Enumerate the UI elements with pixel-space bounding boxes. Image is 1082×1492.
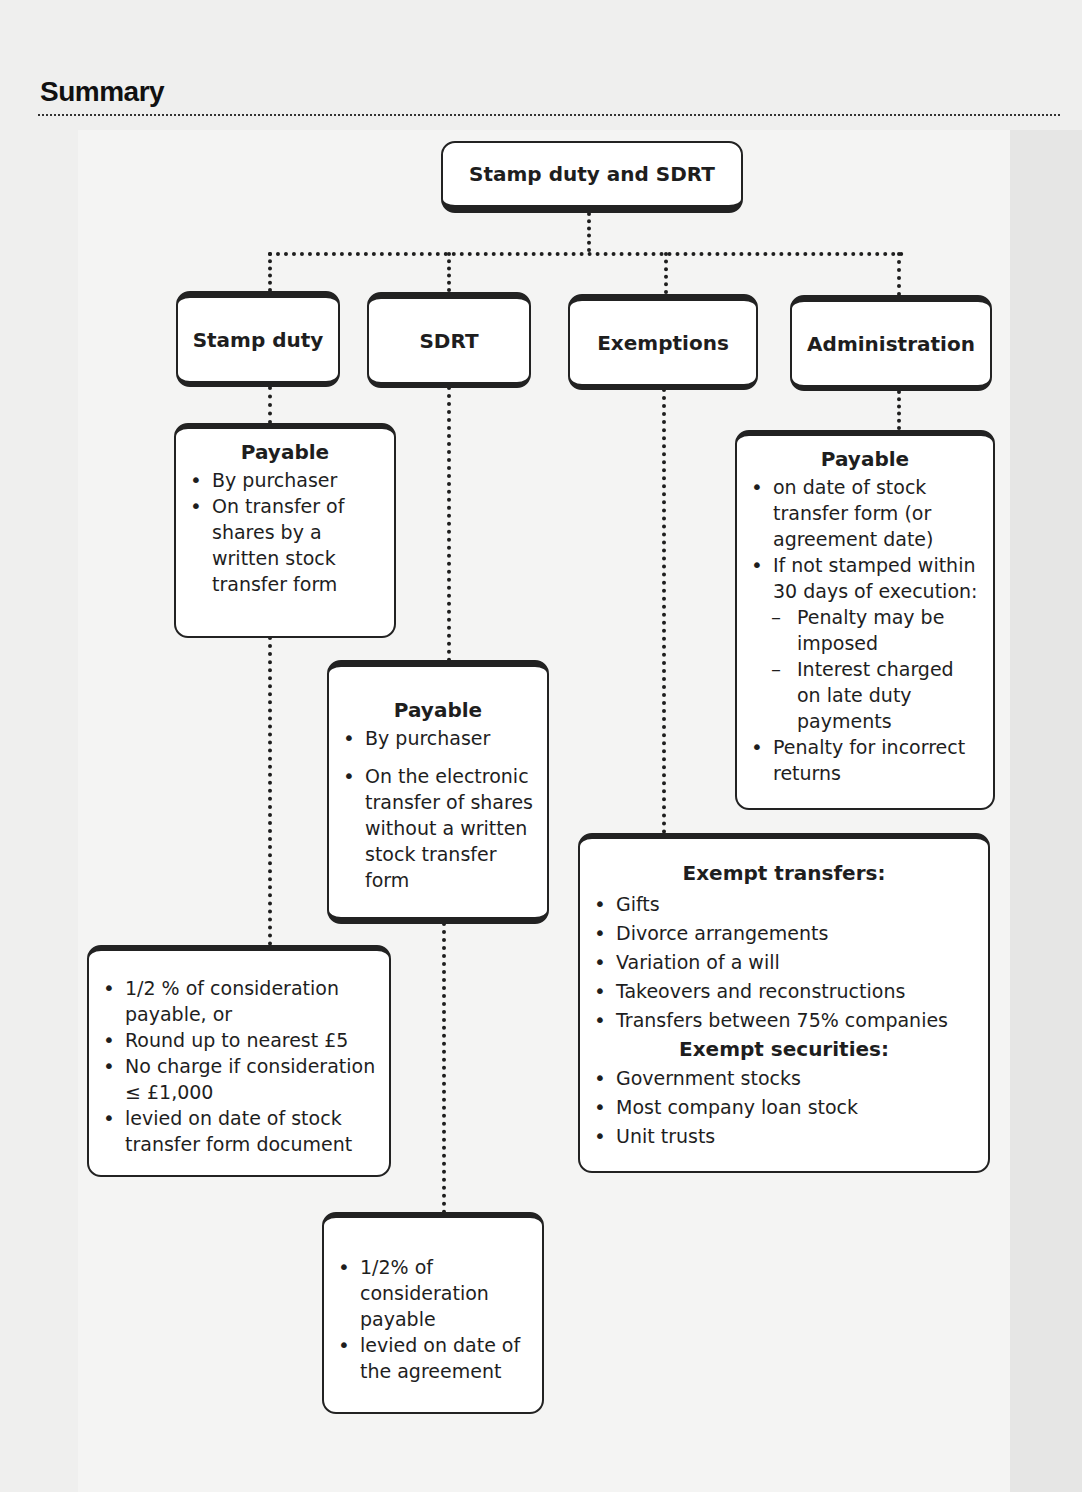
connector-stamp-duty-to-payable	[268, 386, 272, 424]
list-item: On the electronic transfer of shares wit…	[341, 763, 535, 893]
sdrt-payable-title: Payable	[341, 697, 535, 723]
connector-stamp-payable-to-rate	[268, 636, 272, 946]
connector-to-exemptions	[664, 252, 668, 294]
connector-administration-to-payable	[897, 390, 901, 430]
list-item: 1/2% of consideration payable	[336, 1254, 530, 1332]
list-item: If not stamped within 30 days of executi…	[749, 552, 981, 604]
stamp-duty-payable-title: Payable	[188, 439, 382, 465]
exemptions-box: Exempt transfers: Gifts Divorce arrangem…	[578, 833, 990, 1173]
stamp-duty-rate-box: 1/2 % of consideration payable, or Round…	[87, 945, 391, 1177]
list-item: Penalty for incorrect returns	[749, 734, 981, 786]
list-item: Most company loan stock	[592, 1093, 976, 1122]
branch-label-administration: Administration	[807, 332, 975, 356]
connector-exemptions-to-list	[662, 388, 666, 834]
list-item: No charge if consideration ≤ £1,000	[101, 1053, 377, 1105]
exempt-securities-list: Government stocks Most company loan stoc…	[592, 1064, 976, 1151]
list-item: on date of stock transfer form (or agree…	[749, 474, 981, 552]
branch-node-exemptions: Exemptions	[568, 294, 758, 390]
list-item: Transfers between 75% companies	[592, 1006, 976, 1035]
list-item: Takeovers and reconstructions	[592, 977, 976, 1006]
connector-sdrt-payable-to-rate	[442, 922, 446, 1214]
list-item: Unit trusts	[592, 1122, 976, 1151]
exempt-transfers-list: Gifts Divorce arrangements Variation of …	[592, 890, 976, 1035]
root-node-label: Stamp duty and SDRT	[469, 162, 715, 186]
list-subitem: Penalty may be imposed	[749, 604, 981, 656]
list-item: Divorce arrangements	[592, 919, 976, 948]
branch-label-sdrt: SDRT	[419, 329, 478, 353]
page-title: Summary	[40, 76, 164, 108]
branch-label-exemptions: Exemptions	[597, 331, 729, 355]
connector-sdrt-to-payable	[447, 386, 451, 662]
list-item: Variation of a will	[592, 948, 976, 977]
heading-divider	[38, 114, 1060, 116]
sdrt-payable-list: By purchaser On the electronic transfer …	[341, 725, 535, 893]
stamp-duty-payable-list: By purchaser On transfer of shares by a …	[188, 467, 382, 597]
sdrt-payable-box: Payable By purchaser On the electronic t…	[327, 660, 549, 924]
sdrt-rate-box: 1/2% of consideration payable levied on …	[322, 1212, 544, 1414]
connector-to-sdrt	[447, 252, 451, 292]
list-item: levied on date of the agreement	[336, 1332, 530, 1384]
connector-to-stamp-duty	[268, 252, 272, 292]
branch-node-administration: Administration	[790, 295, 992, 391]
administration-payable-title: Payable	[749, 446, 981, 472]
list-subitem: Interest charged on late duty payments	[749, 656, 981, 734]
list-item: Government stocks	[592, 1064, 976, 1093]
page-margin-strip	[1010, 130, 1082, 1492]
list-item: By purchaser	[341, 725, 535, 751]
exempt-transfers-title: Exempt transfers:	[592, 859, 976, 888]
stamp-duty-rate-list: 1/2 % of consideration payable, or Round…	[101, 975, 377, 1157]
branch-node-stamp-duty: Stamp duty	[176, 291, 340, 387]
branch-node-sdrt: SDRT	[367, 292, 531, 388]
list-item: levied on date of stock transfer form do…	[101, 1105, 377, 1157]
list-item: By purchaser	[188, 467, 382, 493]
root-node: Stamp duty and SDRT	[441, 141, 743, 213]
administration-payable-box: Payable on date of stock transfer form (…	[735, 430, 995, 810]
branch-label-stamp-duty: Stamp duty	[193, 328, 324, 352]
exempt-securities-title: Exempt securities:	[592, 1035, 976, 1064]
list-item: 1/2 % of consideration payable, or	[101, 975, 377, 1027]
connector-branch-bar	[268, 252, 904, 256]
list-item: Round up to nearest £5	[101, 1027, 377, 1053]
sdrt-rate-list: 1/2% of consideration payable levied on …	[336, 1254, 530, 1384]
connector-root-down	[587, 212, 591, 252]
connector-to-administration	[897, 252, 901, 296]
list-item: On transfer of shares by a written stock…	[188, 493, 382, 597]
list-item: Gifts	[592, 890, 976, 919]
stamp-duty-payable-box: Payable By purchaser On transfer of shar…	[174, 423, 396, 638]
administration-payable-list: on date of stock transfer form (or agree…	[749, 474, 981, 786]
